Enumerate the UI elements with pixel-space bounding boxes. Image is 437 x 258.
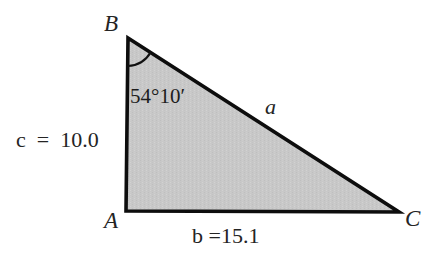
triangle-figure: B A C 54°10′ a c = 10.0 b =15.1 xyxy=(0,0,437,258)
side-label-a: a xyxy=(265,96,276,118)
vertex-label-b: B xyxy=(104,12,118,35)
vertex-label-a: A xyxy=(104,209,118,232)
vertex-label-c: C xyxy=(405,207,420,230)
side-measure-label-c: c = 10.0 xyxy=(16,129,99,151)
side-measure-label-b: b =15.1 xyxy=(192,225,259,247)
angle-measure-label: 54°10′ xyxy=(130,86,185,107)
triangle-shape xyxy=(126,38,399,212)
